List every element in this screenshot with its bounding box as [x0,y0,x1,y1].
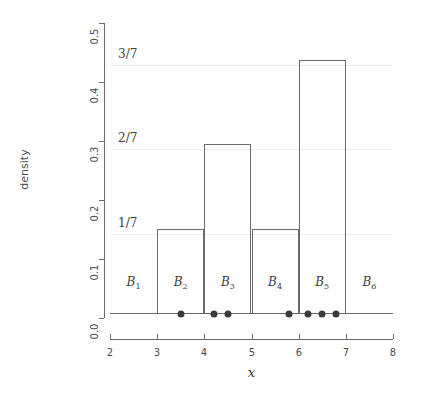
histogram-bar-B2 [157,229,204,313]
gridline-2-over-7 [110,149,393,150]
x-tick-5 [252,334,253,339]
bin-label-B2: B2 [174,275,188,291]
x-tick-3 [157,334,158,339]
y-tick-label-0.3: 0.3 [89,140,100,170]
x-tick-label-8: 8 [390,347,396,358]
x-tick-8 [393,334,394,339]
y-tick-0.1 [99,259,104,260]
bin-label-B1: B1 [127,275,141,291]
x-axis-title: x [248,365,255,380]
x-tick-label-5: 5 [249,347,255,358]
x-axis-spine [110,339,393,340]
y-tick-label-0.2: 0.2 [89,199,100,229]
x-tick-label-4: 4 [201,347,207,358]
gridline-3-over-7 [110,65,393,66]
bin-label-B3: B3 [221,275,235,291]
x-tick-4 [204,334,205,339]
data-point-0 [177,311,184,318]
fraction-label-2-over-7: 2/7 [118,131,137,145]
bin-label-B5: B5 [315,275,329,291]
y-tick-label-0.1: 0.1 [89,258,100,288]
x-tick-label-2: 2 [107,347,113,358]
baseline-rule [110,313,393,314]
data-point-5 [319,311,326,318]
plot-area: 0.00.10.20.30.40.5density1/72/73/7B1B2B3… [0,0,424,399]
x-tick-2 [110,334,111,339]
y-tick-0.4 [99,82,104,83]
y-tick-label-0.0: 0.0 [89,317,100,347]
y-tick-label-0.4: 0.4 [89,81,100,111]
histogram-bar-B4 [252,229,299,313]
y-tick-0.2 [99,200,104,201]
x-tick-label-3: 3 [154,347,160,358]
y-tick-0.0 [99,318,104,319]
data-point-4 [305,311,312,318]
y-tick-label-0.5: 0.5 [89,22,100,52]
x-tick-label-6: 6 [296,347,302,358]
x-tick-label-7: 7 [343,347,349,358]
bin-label-B4: B4 [268,275,282,291]
fraction-label-3-over-7: 3/7 [118,47,137,61]
fraction-label-1-over-7: 1/7 [118,216,137,230]
y-axis-spine [104,23,105,318]
y-tick-0.5 [99,23,104,24]
data-point-6 [333,311,340,318]
data-point-2 [224,311,231,318]
y-tick-0.3 [99,141,104,142]
x-tick-7 [346,334,347,339]
data-point-1 [210,311,217,318]
x-tick-6 [299,334,300,339]
histogram-figure: 0.00.10.20.30.40.5density1/72/73/7B1B2B3… [0,0,424,399]
bin-label-B6: B6 [362,275,376,291]
y-axis-title: density [18,139,31,199]
data-point-3 [286,311,293,318]
